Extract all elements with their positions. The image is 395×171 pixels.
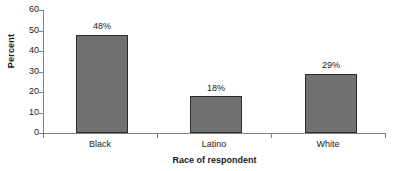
bar-value-label: 18% — [176, 83, 256, 94]
bar-group-latino: 18% — [190, 10, 242, 133]
x-category-label-latino: Latino — [157, 139, 271, 150]
y-tick-label: 10 — [29, 107, 39, 118]
x-tick-mark-start — [43, 134, 44, 138]
y-tick-label: 60 — [29, 4, 39, 15]
y-tick-label: 50 — [29, 25, 39, 36]
bar-black[interactable] — [76, 35, 128, 133]
bar-white[interactable] — [305, 74, 357, 134]
x-axis-line — [43, 133, 386, 134]
bar-group-black: 48% — [76, 10, 128, 133]
plot-area: 48% 18% 29% — [43, 10, 386, 133]
y-tick-label: 20 — [29, 86, 39, 97]
x-tick-mark-1 — [157, 134, 158, 138]
y-axis-title: Percent — [6, 16, 16, 86]
x-axis-title: Race of respondent — [43, 155, 386, 165]
bar-chart: Percent 60 50 40 30 20 10 0 48% 18 — [0, 0, 395, 171]
x-tick-mark-2 — [271, 134, 272, 138]
x-category-label-black: Black — [43, 139, 157, 150]
y-tick-label: 40 — [29, 45, 39, 56]
x-category-label-white: White — [271, 139, 385, 150]
bar-value-label: 48% — [62, 21, 142, 32]
x-tick-mark-end — [385, 134, 386, 138]
bar-latino[interactable] — [190, 96, 242, 133]
bar-group-white: 29% — [305, 10, 357, 133]
y-tick-label: 30 — [29, 66, 39, 77]
bar-value-label: 29% — [291, 60, 371, 71]
